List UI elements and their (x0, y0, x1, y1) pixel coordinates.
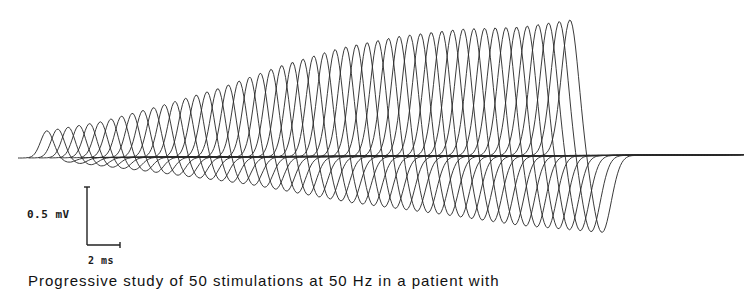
trace (248, 66, 515, 195)
trace (489, 26, 744, 229)
trace (342, 41, 629, 210)
voltage-scale-label: 0.5 mV (27, 208, 70, 221)
trace (436, 29, 741, 224)
trace (196, 85, 453, 185)
time-scale-label: 2 ms (88, 255, 114, 266)
trace (531, 20, 744, 232)
trace (468, 28, 744, 227)
superimposed-traces (18, 20, 744, 232)
trace (374, 35, 666, 214)
trace (520, 22, 744, 232)
trace (280, 56, 553, 201)
scale-bar (84, 187, 120, 248)
trace (321, 45, 603, 207)
figure-caption: Progressive study of 50 stimulations at … (28, 272, 500, 289)
trace (269, 59, 541, 199)
trace (206, 81, 464, 187)
trace (478, 28, 744, 228)
trace (185, 89, 440, 184)
trace (499, 25, 744, 230)
